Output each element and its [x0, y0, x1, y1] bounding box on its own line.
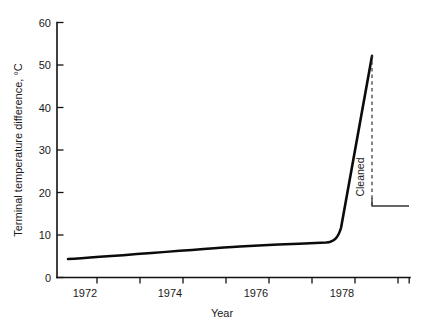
chart-figure: 0 10 20 30 40 50 60 Terminal temperature… — [0, 0, 422, 331]
y-tick-label-20: 20 — [39, 187, 51, 199]
y-tick-label-40: 40 — [39, 102, 51, 114]
y-axis: 0 10 20 30 40 50 60 Terminal temperature… — [12, 17, 64, 284]
x-tick-label-1976: 1976 — [244, 287, 268, 299]
y-tick-label-0: 0 — [45, 272, 51, 284]
x-tick-label-1972: 1972 — [73, 287, 97, 299]
cleaned-elbow-bracket — [372, 198, 409, 206]
y-tick-label-30: 30 — [39, 144, 51, 156]
y-tick-label-60: 60 — [39, 17, 51, 29]
y-tick-label-50: 50 — [39, 59, 51, 71]
y-axis-title: Terminal temperature difference, °C — [12, 63, 24, 237]
curve-path — [68, 56, 372, 259]
x-tick-label-1978: 1978 — [330, 287, 354, 299]
cleaned-annotation-label: Cleaned — [354, 157, 366, 196]
annotation-cleaned: Cleaned — [354, 55, 409, 207]
x-axis-title: Year — [211, 307, 234, 319]
y-tick-label-10: 10 — [39, 229, 51, 241]
line-chart-canvas: 0 10 20 30 40 50 60 Terminal temperature… — [0, 0, 422, 331]
x-axis: 1972 1974 1976 1978 Year — [57, 278, 410, 320]
x-tick-label-1974: 1974 — [158, 287, 182, 299]
data-series-terminal-temperature-difference — [68, 56, 372, 259]
